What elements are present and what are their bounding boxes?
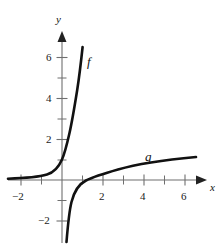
y-tick-label-2: 2 (46, 134, 52, 145)
y-tick-label-6: 6 (46, 52, 52, 63)
graph-canvas (0, 0, 221, 246)
x-tick-label-6: 6 (181, 191, 187, 202)
x-axis-label: x (210, 182, 215, 193)
x-axis-arrow-icon (196, 176, 207, 185)
curve-label-g: g (145, 150, 152, 163)
x-tick-label-2: 2 (99, 191, 105, 202)
y-tick-label--2: −2 (38, 215, 50, 226)
y-tick-label-4: 4 (46, 93, 52, 104)
x-tick-label-4: 4 (140, 191, 146, 202)
y-axis-arrow-icon (58, 31, 67, 42)
curve-g (67, 157, 197, 242)
y-axis-label: y (56, 14, 61, 25)
graph-figure: x y −2 2 4 6 6 4 2 −2 f g (0, 0, 221, 246)
curve-f (8, 47, 83, 179)
y-axis-group (57, 31, 68, 243)
curve-label-f: f (87, 55, 91, 68)
x-tick-label--2: −2 (12, 191, 24, 202)
